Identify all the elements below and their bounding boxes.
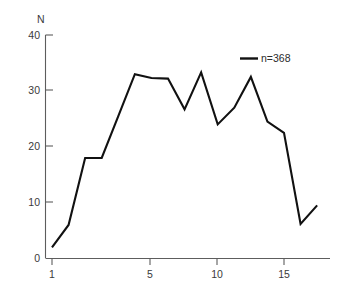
y-tick-label-20: 20 bbox=[28, 140, 40, 152]
y-tick-label-40: 40 bbox=[28, 29, 40, 41]
y-tick-label-0: 0 bbox=[34, 252, 40, 264]
chart-legend: n=368 bbox=[240, 52, 291, 64]
x-tick-label-5: 5 bbox=[147, 268, 153, 280]
x-tick-labels: 1 5 10 15 bbox=[49, 268, 290, 280]
x-tick-label-10: 10 bbox=[211, 268, 223, 280]
line-chart-canvas: N 40 30 20 10 0 1 5 10 15 n=368 bbox=[0, 0, 343, 290]
y-axis-title: N bbox=[37, 13, 45, 25]
y-tick-labels: 40 30 20 10 0 bbox=[28, 29, 40, 264]
data-series-line bbox=[52, 72, 317, 247]
x-tick-label-15: 15 bbox=[278, 268, 290, 280]
y-axis-group bbox=[46, 35, 54, 258]
legend-entry-label: n=368 bbox=[261, 52, 291, 64]
x-tick-label-1: 1 bbox=[49, 268, 55, 280]
y-tick-label-30: 30 bbox=[28, 84, 40, 96]
y-tick-label-10: 10 bbox=[28, 196, 40, 208]
chart-figure: N 40 30 20 10 0 1 5 10 15 n=368 bbox=[0, 0, 343, 290]
x-axis-group bbox=[46, 259, 331, 266]
